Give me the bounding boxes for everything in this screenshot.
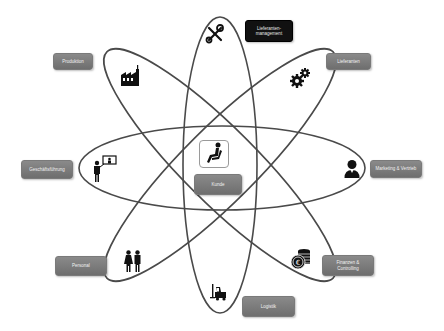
coins-euro-icon: € [290,248,312,270]
node-label: Lieferanten [337,59,360,65]
node-marketing-vertrieb[interactable]: Marketing & Vertrieb [370,160,422,178]
factory-icon [120,65,144,87]
people-icon [124,250,142,273]
center-icon-frame [199,140,229,168]
seated-person-icon [200,141,228,167]
node-label: Geschäftsführung [29,167,65,173]
node-label: Finanzen & Controlling [326,260,370,271]
gears-icon [290,67,312,89]
node-label: Kunde [211,182,224,188]
node-label: Logistik [261,304,276,310]
forklift-icon [210,283,228,301]
node-lieferanten-management[interactable]: Lieferanten-management [245,20,293,42]
node-logistik[interactable]: Logistik [242,296,295,317]
presenter-icon [92,155,118,183]
node-personal[interactable]: Personal [55,256,107,276]
node-label: Personal [72,263,90,269]
user-icon [344,159,360,179]
node-label: Produktion [62,59,84,65]
node-label: Marketing & Vertrieb [376,166,417,172]
node-produktion[interactable]: Produktion [53,53,93,70]
node-finanzen-controlling[interactable]: Finanzen & Controlling [322,255,374,276]
node-label: Lieferanten-management [249,26,289,37]
node-lieferanten[interactable]: Lieferanten [326,53,371,70]
svg-text:€: € [296,259,300,267]
node-geschaeftsfuehrung[interactable]: Geschäftsführung [21,160,73,179]
node-kunde[interactable]: Kunde [194,174,242,195]
wrench-screwdriver-icon [205,24,225,44]
